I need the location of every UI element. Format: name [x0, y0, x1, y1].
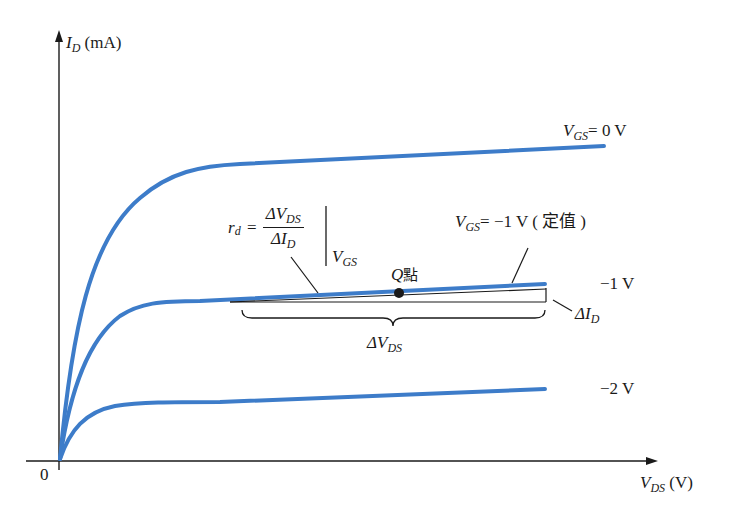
curve-vgs-minus-2v — [60, 389, 545, 459]
rd-formula: rd = ΔVDS ΔID — [228, 205, 304, 250]
rd-condition: VGS — [332, 248, 357, 268]
rd-symbol: r — [228, 218, 235, 237]
const-vgs-annotation: VGS= −1 V ( 定值 ) — [455, 213, 586, 233]
rd-cond-symbol: V — [332, 247, 342, 266]
rd-num-sub: DS — [286, 212, 301, 226]
curve-vgs-minus-1v — [60, 284, 545, 459]
q-suffix: 點 — [403, 267, 418, 283]
rd-cond-sub: GS — [342, 255, 357, 269]
rd-den-text: ΔI — [271, 229, 287, 248]
origin-label: 0 — [40, 466, 49, 483]
delta-vds-brace — [242, 310, 545, 326]
const-symbol: V — [455, 212, 465, 231]
y-label-unit: (mA) — [85, 33, 122, 52]
q-point-marker — [394, 288, 404, 298]
delta-id-label: ΔID — [575, 305, 599, 325]
const-sub: GS — [465, 220, 480, 234]
rd-leader — [291, 257, 318, 293]
x-label-sub: DS — [650, 481, 665, 495]
x-label-unit: (V) — [669, 473, 693, 492]
fet-drain-characteristics-diagram — [0, 0, 733, 529]
vgs0-value: = 0 V — [588, 121, 627, 140]
rd-fraction: ΔVDS ΔID — [263, 205, 304, 250]
q-symbol: Q — [391, 265, 403, 284]
y-label-sub: D — [72, 41, 81, 55]
rd-num-text: ΔV — [266, 204, 286, 223]
curve-label-vgs-minus-2v: −2 V — [600, 380, 634, 397]
rd-denominator: ΔID — [263, 228, 304, 250]
rd-numerator: ΔVDS — [263, 205, 304, 228]
const-vgs-leader — [512, 248, 528, 283]
rd-sub: d — [235, 224, 241, 238]
const-value: = −1 V ( 定值 ) — [480, 212, 586, 231]
q-point-label: Q點 — [391, 266, 418, 283]
y-axis-label: ID (mA) — [66, 34, 121, 54]
delta-id-text: ΔI — [575, 304, 591, 323]
delta-id-sub: D — [591, 312, 600, 326]
vgs0-symbol: V — [563, 121, 573, 140]
x-axis-arrow-icon — [646, 457, 658, 465]
rd-den-sub: D — [287, 237, 296, 251]
delta-vds-sub: DS — [387, 341, 402, 355]
vgs0-sub: GS — [573, 129, 588, 143]
delta-vds-label: ΔVDS — [367, 334, 402, 354]
curve-label-vgs-0v: VGS= 0 V — [563, 122, 627, 142]
rd-equals: = — [247, 218, 257, 237]
y-axis-arrow-icon — [55, 30, 63, 42]
curve-label-vgs-minus-1v: −1 V — [600, 275, 634, 292]
delta-vds-text: ΔV — [367, 333, 387, 352]
x-axis-label: VDS (V) — [640, 474, 693, 494]
delta-id-leader — [553, 300, 572, 311]
x-label-symbol: V — [640, 473, 650, 492]
